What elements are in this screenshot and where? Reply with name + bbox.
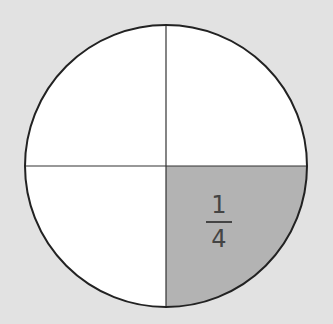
numerator: 1 (201, 192, 237, 218)
fraction-circle (0, 0, 333, 324)
fraction-bar (206, 221, 232, 223)
fraction-label: 1 4 (201, 192, 237, 252)
denominator: 4 (201, 226, 237, 252)
